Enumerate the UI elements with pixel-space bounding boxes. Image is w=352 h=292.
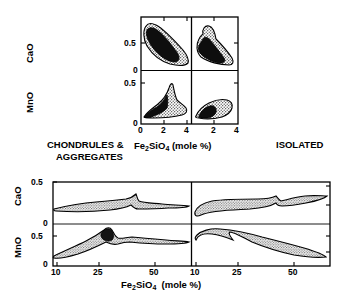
lower-xtick-right-10: 10	[190, 267, 199, 277]
lower-cao-ytick-0: 0	[43, 218, 48, 228]
header-chondrules: CHONDRULES &	[47, 139, 124, 151]
upper-xtick-right-4: 4	[234, 125, 239, 135]
upper-cao-ytick-05: 0.5	[124, 38, 136, 48]
formula-sub4-2: 4	[152, 284, 156, 291]
formula-units: (mole %)	[172, 140, 212, 151]
field-upper-right-cao	[197, 26, 233, 65]
lower-cao-axis-name: CaO	[12, 186, 23, 206]
lower-cao-ytick-05: 0.5	[31, 177, 43, 187]
lower-xtick-left-10: 10	[51, 267, 60, 277]
field-upper-left-cao	[144, 24, 188, 66]
field-upper-left-mno	[144, 84, 187, 118]
upper-xtick-right-2: 2	[211, 125, 216, 135]
upper-mno-axis-name: MnO	[24, 92, 35, 113]
header-isolated: ISOLATED	[276, 139, 323, 151]
lower-xtick-left-50: 50	[149, 267, 158, 277]
upper-xtick-left-4: 4	[184, 125, 189, 135]
field-lower-right-mno	[195, 229, 326, 258]
field-upper-right-mno	[196, 100, 233, 119]
figure-panel: CaO MnO 0.5 0 0.5 0 0 2 4 2 4 Fe2SiO4 (m…	[0, 0, 352, 292]
formula-sub4: 4	[165, 145, 169, 152]
header-aggregates: AGGREGATES	[56, 151, 123, 163]
upper-xtick-left-2: 2	[161, 125, 166, 135]
upper-xtick-left-0: 0	[138, 125, 143, 135]
formula-fe: Fe	[134, 140, 145, 151]
field-lower-left-cao	[54, 194, 189, 212]
formula-sio-2: SiO	[136, 279, 152, 290]
lower-xtick-right-25: 25	[232, 267, 241, 277]
formula-fe-2: Fe	[121, 279, 132, 290]
lower-mno-ytick-05: 0.5	[31, 231, 43, 241]
field-lower-right-cao	[195, 196, 327, 216]
field-lower-left-mno	[53, 228, 189, 259]
formula-units-2: (mole %)	[162, 279, 202, 290]
upper-xaxis-label: Fe2SiO4 (mole %)	[134, 140, 212, 152]
upper-cao-ytick-0: 0	[133, 65, 138, 75]
lower-xaxis-label: Fe2SiO4 (mole %)	[121, 279, 201, 291]
lower-xtick-right-50: 50	[288, 267, 297, 277]
lower-mno-axis-name: MnO	[12, 237, 23, 258]
lower-mno-ytick-0: 0	[43, 259, 48, 269]
lower-xtick-left-25: 25	[93, 267, 102, 277]
upper-mno-ytick-05: 0.5	[124, 78, 136, 88]
upper-cao-axis-name: CaO	[24, 43, 35, 63]
formula-sio: SiO	[149, 140, 165, 151]
